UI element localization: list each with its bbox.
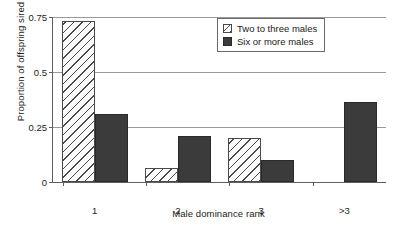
x-tick-label: 1 (92, 205, 97, 216)
legend-label: Two to three males (237, 23, 317, 34)
x-tick-label: 3 (258, 205, 263, 216)
bar-chart-figure: Proportion of offspring sired Male domin… (0, 0, 398, 229)
y-tick-mark (49, 127, 53, 128)
legend-swatch-hatched-icon (223, 24, 232, 33)
y-tick-label: 0.75 (29, 12, 48, 23)
legend-swatch-solid-icon (223, 37, 232, 46)
bar (62, 21, 95, 182)
x-tick-label: 2 (175, 205, 180, 216)
bar (95, 114, 128, 182)
y-tick-mark (49, 17, 53, 18)
y-tick-label: 0.5 (34, 67, 47, 78)
bar (145, 168, 178, 182)
bar (228, 138, 261, 182)
y-tick-mark (49, 72, 53, 73)
bar (261, 160, 294, 182)
bar (344, 102, 377, 182)
legend: Two to three males Six or more males (217, 18, 325, 52)
x-tick-mark (63, 182, 64, 186)
x-tick-mark (229, 182, 230, 186)
x-tick-mark (313, 182, 314, 186)
y-tick-label: 0.25 (29, 122, 48, 133)
legend-item: Six or more males (223, 35, 317, 48)
bar (178, 136, 211, 182)
y-axis-title: Proportion of offspring sired (15, 0, 26, 142)
gridline (53, 72, 386, 73)
y-tick-label: 0 (42, 177, 47, 188)
x-axis-title: Male dominance rank (52, 208, 385, 219)
x-tick-label: >3 (339, 205, 350, 216)
legend-label: Six or more males (237, 36, 314, 47)
y-tick-mark (49, 182, 53, 183)
x-tick-mark (146, 182, 147, 186)
legend-item: Two to three males (223, 22, 317, 35)
